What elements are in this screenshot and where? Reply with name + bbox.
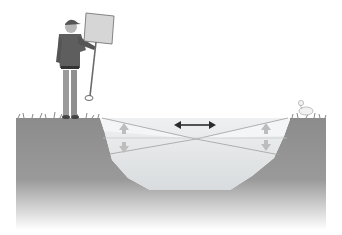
- pond-illustration: [0, 0, 342, 235]
- secchi-pole: [85, 42, 96, 101]
- sign-board: [84, 13, 114, 44]
- grass-left: [18, 112, 99, 118]
- duck: [298, 100, 313, 115]
